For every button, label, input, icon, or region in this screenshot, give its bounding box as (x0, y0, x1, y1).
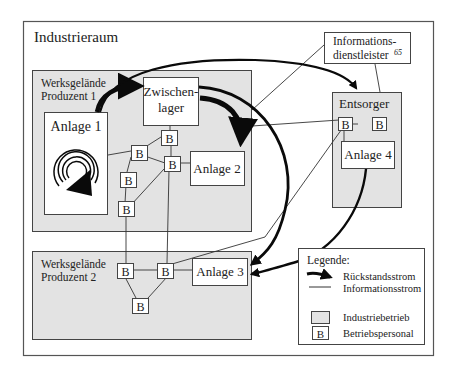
region-producer1-label-1: Werksgelände (41, 77, 106, 90)
diagram-title: Industrieraum (34, 29, 118, 45)
personnel-b: B (119, 202, 135, 217)
node-zwischenlager-label-2: lager (158, 100, 185, 115)
legend-label-personnel: Betriebspersonal (343, 328, 414, 339)
region-producer2-label-1: Werksgelände (41, 258, 106, 271)
node-zwischenlager-label-1: Zwischen- (144, 84, 199, 99)
svg-text:B: B (161, 265, 169, 279)
personnel-b: B (121, 173, 137, 188)
svg-text:B: B (122, 203, 130, 217)
svg-text:B: B (165, 132, 173, 146)
legend-industry-swatch-icon (312, 312, 330, 324)
svg-text:B: B (136, 300, 144, 314)
node-anlage4-label: Anlage 4 (344, 147, 392, 162)
region-disposer-label: Entsorger (339, 96, 390, 111)
personnel-b: B (339, 118, 353, 132)
legend-title: Legende: (307, 254, 350, 267)
personnel-b: B (165, 157, 181, 172)
node-info-label-2: dienstleister (333, 49, 389, 61)
personnel-b: B (133, 299, 149, 314)
svg-text:B: B (168, 158, 176, 172)
region-producer1-label-2: Produzent 1 (41, 90, 97, 102)
personnel-b: B (158, 264, 174, 279)
node-info-footnote: 65 (394, 48, 402, 57)
svg-text:B: B (341, 118, 349, 132)
personnel-b: B (132, 146, 148, 161)
node-anlage1-label: Anlage 1 (51, 119, 102, 134)
legend-label-residue: Rückstandsstrom (343, 271, 415, 282)
legend-label-industry: Industriebetrieb (343, 312, 409, 323)
personnel-b: B (162, 131, 178, 146)
svg-text:B: B (135, 147, 143, 161)
region-producer2-label-2: Produzent 2 (41, 271, 97, 283)
svg-text:B: B (124, 174, 132, 188)
personnel-b: B (373, 118, 387, 132)
node-anlage2-label: Anlage 2 (193, 161, 240, 176)
svg-text:B: B (375, 118, 383, 132)
svg-text:B: B (121, 265, 129, 279)
legend-personnel-swatch-label: B (317, 328, 324, 340)
industrieraum-diagram: Industrieraum Werksgelände Produzent 1 W… (0, 0, 453, 373)
node-anlage3-label: Anlage 3 (196, 264, 243, 279)
personnel-b: B (118, 264, 134, 279)
node-info-label-1: Informations- (333, 35, 396, 47)
legend-label-info: Informationsstrom (343, 283, 421, 294)
